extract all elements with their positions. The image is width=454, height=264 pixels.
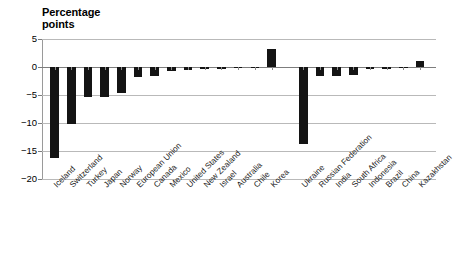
x-tick-mark	[171, 67, 172, 70]
y-tick-mark	[38, 95, 42, 96]
x-tick-mark	[238, 67, 239, 70]
x-tick-mark	[403, 67, 404, 70]
bar	[84, 67, 93, 97]
chart-figure: Percentagepoints 50−5−10−15−20 IcelandSw…	[0, 0, 454, 264]
y-tick-label: −15	[8, 146, 37, 156]
x-tick-mark	[320, 67, 321, 70]
bar	[267, 49, 276, 67]
x-tick-mark	[105, 67, 106, 70]
x-tick-mark	[138, 67, 139, 70]
y-tick-label: −20	[8, 174, 37, 184]
bar	[50, 67, 59, 158]
bar	[117, 67, 126, 93]
x-tick-mark	[255, 67, 256, 70]
y-tick-label: 5	[8, 34, 37, 44]
y-tick-mark	[38, 179, 42, 180]
y-tick-mark	[38, 39, 42, 40]
y-tick-label: −5	[8, 90, 37, 100]
x-tick-mark	[337, 67, 338, 70]
x-tick-mark	[55, 67, 56, 70]
x-tick-mark	[71, 67, 72, 70]
x-tick-mark	[420, 67, 421, 70]
x-tick-mark	[221, 67, 222, 70]
x-tick-mark	[303, 67, 304, 70]
y-tick-label: −10	[8, 118, 37, 128]
bar	[100, 67, 109, 97]
y-tick-label: 0	[8, 62, 37, 72]
gridline-5	[42, 39, 436, 40]
x-tick-mark	[88, 67, 89, 70]
x-tick-mark	[370, 67, 371, 70]
y-tick-mark	[38, 67, 42, 68]
gridline-neg10	[42, 123, 436, 124]
x-tick-mark	[121, 67, 122, 70]
y-tick-mark	[38, 123, 42, 124]
bar	[67, 67, 76, 124]
x-tick-mark	[272, 67, 273, 70]
x-tick-mark	[353, 67, 354, 70]
x-tick-mark	[387, 67, 388, 70]
x-tick-mark	[155, 67, 156, 70]
y-tick-mark	[38, 151, 42, 152]
x-tick-mark	[188, 67, 189, 70]
bar	[299, 67, 308, 144]
x-tick-mark	[205, 67, 206, 70]
